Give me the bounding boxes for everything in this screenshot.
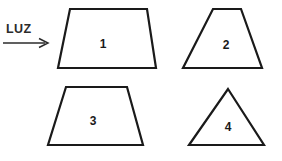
shapes-figure: LUZ 1 2 3 4 [0,0,282,161]
shape-4-group: 4 [189,89,264,145]
light-direction-indicator: LUZ [3,22,48,48]
shape-3-group: 3 [48,87,143,145]
shape-1-group: 1 [58,9,156,68]
shape-4-label: 4 [225,120,232,134]
shape-1-outline [58,9,156,68]
diagram-canvas: LUZ 1 2 3 4 [0,0,282,161]
light-label: LUZ [6,22,32,36]
shape-3-label: 3 [90,114,97,128]
shape-4-outline [189,89,264,145]
shape-1-label: 1 [100,37,107,51]
shape-2-group: 2 [183,9,262,68]
shape-2-label: 2 [223,38,230,52]
